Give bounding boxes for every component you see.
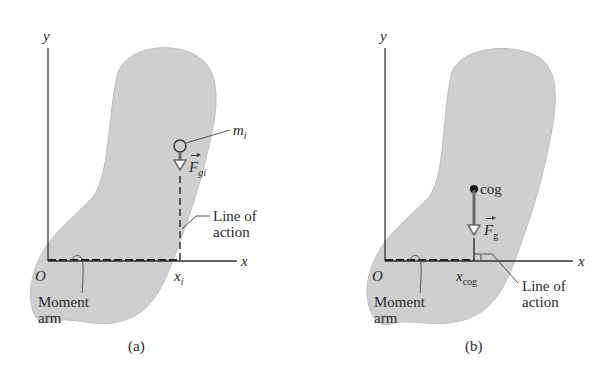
position-label-b: xcog	[456, 268, 477, 286]
y-axis-label-b: y	[380, 28, 387, 44]
moment-arm-label-b: Moment arm	[374, 294, 425, 326]
rigid-body-shape-a	[31, 48, 216, 324]
force-label-b: Fg	[484, 222, 498, 240]
origin-label-a: O	[35, 268, 46, 284]
x-axis-label-a: x	[241, 253, 248, 269]
position-label-a: xi	[174, 268, 183, 286]
y-axis-label-a: y	[43, 28, 50, 44]
cog-label-b: cog	[480, 181, 502, 197]
origin-label-b: O	[372, 268, 383, 284]
line-of-action-label-b: Line of action	[522, 278, 566, 310]
force-label-a: Fgi	[189, 159, 206, 177]
figure-canvas	[0, 0, 613, 389]
caption-a: (a)	[128, 338, 145, 354]
panel-a	[31, 48, 237, 324]
x-axis-label-b: x	[578, 253, 585, 269]
mass-label-a: mi	[233, 122, 247, 140]
line-of-action-label-a: Line of action	[213, 208, 257, 240]
caption-b: (b)	[465, 338, 483, 354]
moment-arm-label-a: Moment arm	[38, 294, 89, 326]
